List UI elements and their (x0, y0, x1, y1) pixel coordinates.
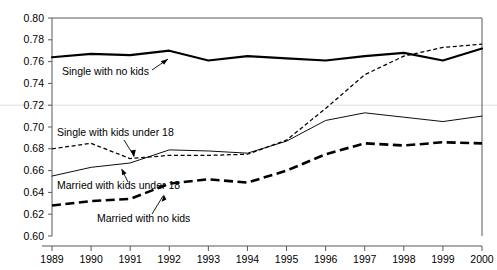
x-tick-label: 1997 (353, 253, 377, 265)
x-tick-label: 1999 (431, 253, 455, 265)
x-tick-label: 1992 (158, 253, 182, 265)
label-married-with-kids-under-18: Married with kids under 18 (57, 179, 180, 191)
label-single-with-no-kids: Single with no kids (62, 65, 149, 77)
y-tick-label: 0.60 (24, 230, 45, 242)
y-tick-label: 0.76 (24, 55, 45, 67)
x-tick-label: 1996 (314, 253, 338, 265)
y-tick-label: 0.70 (24, 121, 45, 133)
y-tick-label: 0.68 (24, 142, 45, 154)
y-tick-label: 0.62 (24, 208, 45, 220)
x-tick-label: 1998 (392, 253, 416, 265)
x-tick-label: 1989 (40, 253, 64, 265)
y-tick-label: 0.64 (24, 186, 45, 198)
label-single-with-kids-under-18: Single with kids under 18 (57, 126, 174, 138)
line-chart: 0.800.780.760.740.720.700.680.660.640.62… (0, 0, 497, 270)
x-tick-label: 1995 (275, 253, 299, 265)
label-married-with-no-kids: Married with no kids (97, 212, 190, 224)
x-tick-label: 1993 (197, 253, 221, 265)
y-tick-label: 0.80 (24, 12, 45, 24)
y-tick-label: 0.78 (24, 33, 45, 45)
chart-canvas: 0.800.780.760.740.720.700.680.660.640.62… (0, 0, 497, 270)
x-tick-label: 1994 (236, 253, 260, 265)
y-tick-label: 0.72 (24, 99, 45, 111)
x-tick-label: 1990 (79, 253, 103, 265)
y-tick-label: 0.66 (24, 164, 45, 176)
x-tick-label: 2000 (470, 253, 494, 265)
y-tick-label: 0.74 (24, 77, 45, 89)
x-tick-label: 1991 (119, 253, 143, 265)
